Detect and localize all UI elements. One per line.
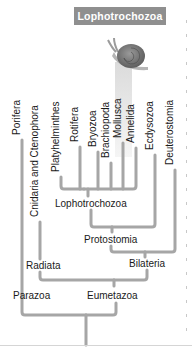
branch-radiata xyxy=(40,272,114,280)
clade-label-bilateria: Bilateria xyxy=(129,258,165,269)
branch-ecdysozoa xyxy=(112,155,155,227)
clade-label-eumetazoa: Eumetazoa xyxy=(87,290,138,301)
bottom-divider xyxy=(0,345,192,346)
taxon-label-rotifera: Rotifera xyxy=(69,107,80,142)
taxon-label-mollusca: Mollusca xyxy=(112,99,123,138)
clade-label-parazoa: Parazoa xyxy=(13,290,50,301)
taxon-label-bryozoa: Bryozoa xyxy=(87,110,98,147)
taxon-label-deuterostomia: Deuterostomia xyxy=(164,100,175,165)
taxon-label-cnidaria: Cnidaria and Ctenophora xyxy=(29,105,40,217)
taxon-label-ecdysozoa: Ecdysozoa xyxy=(144,101,155,150)
clade-label-protostomia: Protostomia xyxy=(84,234,137,245)
branch-lopho-to-proto xyxy=(91,210,112,227)
branch-bilateria xyxy=(114,270,147,280)
branch-proto-to-bilat xyxy=(111,246,145,252)
taxon-label-annelida: Annelida xyxy=(125,104,136,143)
taxon-label-porifera: Porifera xyxy=(11,100,22,135)
branch-eumetazoa xyxy=(86,303,116,315)
clade-label-lophotrochozoa: Lophotrochozoa xyxy=(55,198,127,209)
taxon-label-platyhelminthes: Platyhelminthes xyxy=(50,101,61,172)
clade-label-radiata: Radiata xyxy=(26,260,60,271)
taxon-label-brachiopoda: Brachiopoda xyxy=(100,102,111,158)
branch-deuterostomia xyxy=(145,170,175,252)
